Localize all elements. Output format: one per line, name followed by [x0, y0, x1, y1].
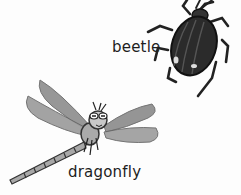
beetle-label: beetle: [112, 38, 160, 56]
dragonfly-label: dragonfly: [68, 163, 141, 181]
insect-illustration: beetle dragonfly: [0, 0, 241, 195]
